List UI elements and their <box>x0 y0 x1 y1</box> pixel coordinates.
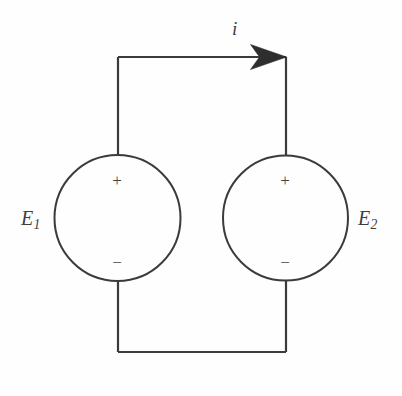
polarity-minus-left: − <box>104 254 130 271</box>
polarity-plus-left: + <box>104 172 130 189</box>
source-label-right-sub: 2 <box>370 217 377 232</box>
source-label-left-base: E <box>21 207 33 229</box>
source-label-right: E2 <box>358 208 377 228</box>
circuit-svg <box>0 0 402 396</box>
polarity-minus-right: − <box>272 254 298 271</box>
current-label: i <box>232 19 237 38</box>
source-label-left: E1 <box>21 208 40 228</box>
polarity-plus-right: + <box>272 172 298 189</box>
source-label-left-sub: 1 <box>33 217 40 232</box>
source-label-right-base: E <box>358 207 370 229</box>
circuit-figure: + − + − E1 E2 i <box>0 0 402 396</box>
